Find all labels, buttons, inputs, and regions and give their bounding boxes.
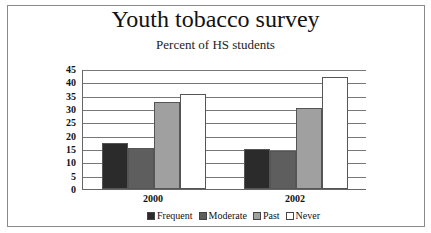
y-tick-label: 25 — [52, 117, 76, 128]
y-tick-label: 35 — [52, 91, 76, 102]
legend-item-moderate: Moderate — [199, 210, 247, 221]
plot-area — [82, 70, 366, 190]
legend: Frequent Moderate Past Never — [147, 210, 320, 221]
bar-moderate-2000 — [128, 148, 154, 189]
y-tick-label: 20 — [52, 131, 76, 142]
legend-item-past: Past — [253, 210, 280, 221]
y-tick-label: 15 — [52, 144, 76, 155]
bar-never-2002 — [322, 77, 348, 189]
chart-title: Youth tobacco survey — [0, 6, 431, 33]
bar-moderate-2002 — [270, 151, 296, 189]
legend-label: Frequent — [157, 210, 193, 221]
bar-never-2000 — [180, 94, 206, 189]
y-tick-label: 10 — [52, 157, 76, 168]
gridline — [83, 70, 366, 71]
legend-label: Moderate — [209, 210, 247, 221]
x-tick-label: 2000 — [133, 193, 173, 204]
chart-subtitle: Percent of HS students — [0, 37, 431, 53]
legend-swatch-icon — [147, 212, 155, 220]
y-tick-label: 0 — [52, 184, 76, 195]
legend-swatch-icon — [253, 212, 261, 220]
bar-frequent-2002 — [244, 149, 270, 189]
legend-label: Past — [263, 210, 280, 221]
y-tick-label: 45 — [52, 64, 76, 75]
legend-swatch-icon — [199, 212, 207, 220]
y-tick-label: 5 — [52, 171, 76, 182]
bar-past-2002 — [296, 108, 322, 189]
x-tick-label: 2002 — [275, 193, 315, 204]
y-tick-label: 30 — [52, 104, 76, 115]
bar-frequent-2000 — [102, 143, 128, 189]
bar-past-2000 — [154, 102, 180, 189]
legend-item-frequent: Frequent — [147, 210, 193, 221]
legend-item-never: Never — [286, 210, 320, 221]
y-tick-label: 40 — [52, 77, 76, 88]
legend-swatch-icon — [286, 212, 294, 220]
legend-label: Never — [296, 210, 320, 221]
